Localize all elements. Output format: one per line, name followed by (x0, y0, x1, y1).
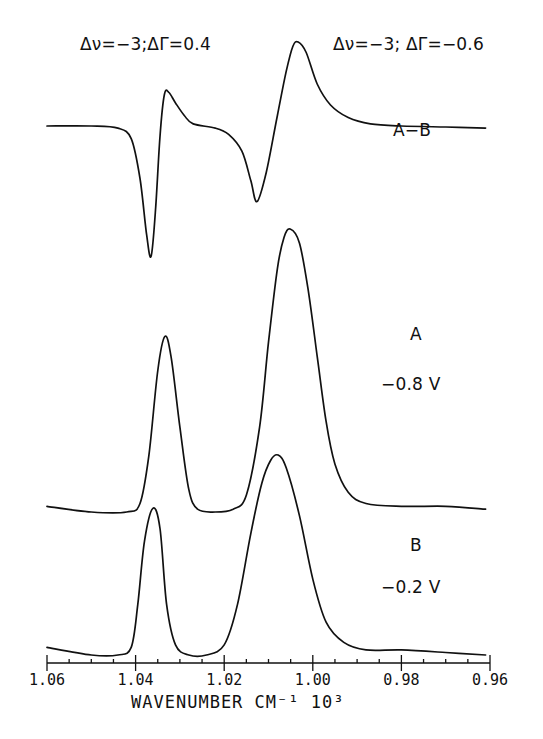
trace-b (47, 455, 486, 657)
tick-label: 1.02 (206, 671, 242, 689)
trace-a-minus-b (47, 42, 486, 257)
x-axis (47, 655, 490, 671)
label-a: A (410, 324, 422, 344)
tick-label: 1.04 (118, 671, 154, 689)
label-a-potential: −0.8 V (381, 374, 441, 394)
tick-label: 1.00 (295, 671, 331, 689)
label-a-minus-b: A−B (393, 120, 431, 140)
label-b-potential: −0.2 V (381, 577, 441, 597)
label-b: B (410, 535, 422, 555)
annotation-left-delta: Δν=−3;ΔΓ=0.4 (80, 34, 211, 54)
annotation-right-delta: Δν=−3; ΔΓ=−0.6 (333, 34, 484, 54)
tick-label: 0.96 (472, 671, 508, 689)
spectra-plot (0, 0, 543, 739)
x-axis-ticks (47, 655, 490, 671)
tick-label: 0.98 (383, 671, 419, 689)
x-axis-label: WAVENUMBER CM⁻¹ 10³ (131, 692, 344, 712)
tick-label: 1.06 (29, 671, 65, 689)
